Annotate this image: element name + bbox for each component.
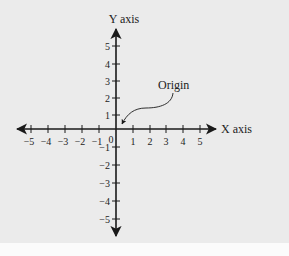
y-tick-label: 4 bbox=[105, 59, 110, 70]
y-tick-label: −5 bbox=[99, 214, 110, 225]
x-tick-label: 4 bbox=[181, 136, 186, 147]
origin-pointer-arrow bbox=[122, 93, 173, 124]
x-tick-label: −2 bbox=[75, 136, 86, 147]
x-tick-label: 3 bbox=[164, 136, 169, 147]
y-tick-label: 3 bbox=[105, 76, 110, 87]
y-tick-label: −3 bbox=[99, 178, 110, 189]
y-tick-label: −2 bbox=[99, 160, 110, 171]
y-tick-label: 5 bbox=[105, 41, 110, 52]
x-tick-label: −3 bbox=[58, 136, 69, 147]
coordinate-plane: −5 −4 −3 −2 −1 1 2 3 4 5 0 5 4 3 2 1 −1 … bbox=[0, 0, 289, 256]
x-axis-title: X axis bbox=[221, 122, 252, 136]
y-tick-label: −4 bbox=[99, 196, 110, 207]
y-axis-title: Y axis bbox=[109, 12, 140, 26]
y-tick-label: 1 bbox=[105, 110, 110, 121]
y-tick-label: 2 bbox=[105, 93, 110, 104]
origin-annotation-label: Origin bbox=[158, 78, 189, 92]
x-tick-label: 2 bbox=[148, 136, 153, 147]
x-tick-label: 1 bbox=[131, 136, 136, 147]
x-tick-label: 5 bbox=[198, 136, 203, 147]
x-tick-label: −4 bbox=[41, 136, 52, 147]
y-tick-label: −1 bbox=[99, 142, 110, 153]
x-tick-label: −5 bbox=[24, 136, 35, 147]
